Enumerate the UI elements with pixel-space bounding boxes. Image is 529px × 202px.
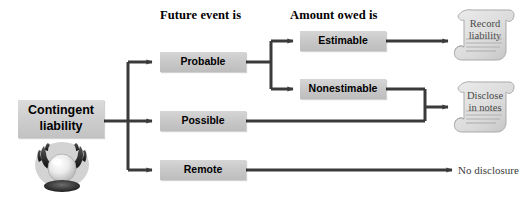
node-possible[interactable]: Possible: [160, 111, 246, 131]
flowchart-canvas: Future event is Amount owed is Contingen…: [0, 0, 529, 202]
node-nonestimable[interactable]: Nonestimable: [300, 79, 386, 99]
outcome-no-disclosure: No disclosure: [458, 164, 519, 176]
node-probable[interactable]: Probable: [160, 52, 246, 72]
scroll-icon: [452, 6, 518, 64]
outcome-record-liability[interactable]: Record liability: [452, 6, 518, 64]
crystal-ball-icon: [33, 140, 91, 194]
scroll-icon: [452, 78, 518, 136]
node-estimable[interactable]: Estimable: [300, 31, 386, 51]
node-contingent-liability[interactable]: Contingent liability: [18, 100, 104, 138]
node-remote[interactable]: Remote: [160, 160, 246, 180]
outcome-disclose-in-notes[interactable]: Disclose in notes: [452, 78, 518, 136]
column-header-amount-owed: Amount owed is: [290, 8, 378, 23]
column-header-future-event: Future event is: [160, 8, 241, 23]
